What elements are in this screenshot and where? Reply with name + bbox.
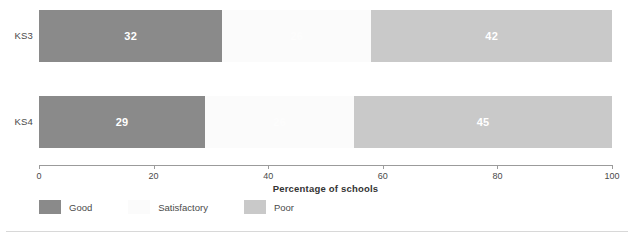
bar-segment-ks3-poor[interactable]: 42 [371, 10, 612, 62]
legend-item-satisfactory[interactable]: Satisfactory [128, 200, 208, 214]
row-label-ks4: KS4 [0, 96, 33, 148]
plot-area: KS3 32 26 42 KS4 29 26 45 [39, 0, 612, 166]
x-axis-tick [154, 165, 155, 169]
bar-segment-value: 26 [290, 30, 303, 42]
row-label-ks3: KS3 [0, 10, 33, 62]
x-axis-tick-label: 40 [263, 171, 273, 181]
x-axis-tick [39, 165, 40, 169]
x-axis-tick [383, 165, 384, 169]
bar-segment-ks4-good[interactable]: 29 [39, 96, 205, 148]
x-axis-tick-label: 60 [378, 171, 388, 181]
legend-item-good[interactable]: Good [39, 200, 92, 214]
bar-segment-value: 29 [116, 116, 129, 128]
x-axis-tick [612, 165, 613, 169]
bar-group-ks3: KS3 32 26 42 [39, 10, 612, 62]
x-axis-tick [497, 165, 498, 169]
legend-swatch-icon [244, 200, 266, 214]
bar-segment-value: 32 [124, 30, 137, 42]
x-axis-tick-label: 100 [604, 171, 619, 181]
x-axis: 020406080100 [39, 165, 612, 166]
bar-segment-value: 42 [485, 30, 498, 42]
bar-segment-value: 26 [273, 116, 286, 128]
bar-segment-ks4-poor[interactable]: 45 [354, 96, 612, 148]
x-axis-tick [268, 165, 269, 169]
stacked-bar-chart: KS3 32 26 42 KS4 29 26 45 [0, 0, 634, 241]
x-axis-tick-label: 20 [149, 171, 159, 181]
bottom-divider [6, 231, 628, 232]
legend-label: Good [69, 202, 92, 213]
bar-segment-ks3-good[interactable]: 32 [39, 10, 222, 62]
bar-segment-ks3-satisfactory[interactable]: 26 [222, 10, 371, 62]
legend-label: Satisfactory [158, 202, 208, 213]
x-axis-title: Percentage of schools [39, 183, 612, 194]
x-axis-tick-label: 0 [36, 171, 41, 181]
legend-swatch-icon [128, 200, 150, 214]
x-axis-tick-label: 80 [492, 171, 502, 181]
legend-label: Poor [274, 202, 294, 213]
bar-group-ks4: KS4 29 26 45 [39, 96, 612, 148]
legend-item-poor[interactable]: Poor [244, 200, 294, 214]
legend-swatch-icon [39, 200, 61, 214]
bar-segment-ks4-satisfactory[interactable]: 26 [205, 96, 354, 148]
legend: Good Satisfactory Poor [39, 200, 330, 214]
bar-segment-value: 45 [477, 116, 490, 128]
